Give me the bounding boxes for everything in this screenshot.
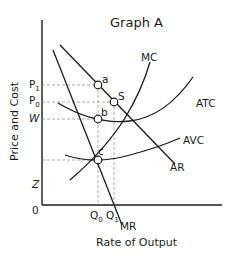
tick-p1: P1 — [29, 79, 40, 90]
label-point-b: b — [101, 107, 108, 118]
label-atc: ATC — [196, 98, 216, 109]
tick-z: Z — [32, 179, 39, 190]
label-point-c: c — [98, 146, 104, 157]
label-point-a: a — [102, 74, 108, 85]
label-avc: AVC — [183, 135, 204, 146]
label-point-s: S — [118, 91, 125, 102]
avc-curve — [65, 138, 180, 160]
label-mr: MR — [120, 221, 136, 232]
y-axis-label: Price and Cost — [8, 82, 21, 161]
label-mc: MC — [141, 52, 157, 63]
point-s — [110, 98, 118, 106]
tick-q0: Q0 — [90, 210, 103, 221]
label-ar: AR — [170, 162, 184, 173]
tick-p0: P0 — [29, 95, 40, 106]
origin-label: 0 — [32, 205, 39, 216]
point-a — [94, 81, 102, 89]
point-c — [94, 156, 102, 164]
x-axis-label: Rate of Output — [96, 237, 177, 248]
tick-q1: Q1 — [106, 210, 119, 221]
tick-w: W — [29, 113, 39, 124]
graph-title: Graph A — [110, 16, 163, 29]
